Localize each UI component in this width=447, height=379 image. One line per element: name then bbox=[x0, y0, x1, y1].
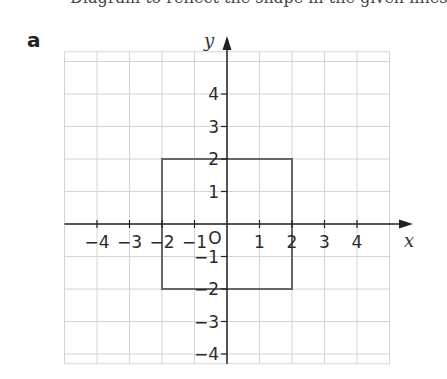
x-axis-arrow-icon bbox=[399, 220, 413, 229]
x-axis-label: x bbox=[404, 230, 414, 251]
y-tick-label: −4 bbox=[194, 344, 219, 364]
y-tick-label: 4 bbox=[208, 84, 219, 104]
x-tick-label: 2 bbox=[287, 232, 298, 252]
x-tick-label: −2 bbox=[149, 232, 174, 252]
y-tick-label: 1 bbox=[208, 182, 219, 202]
y-tick-label: −1 bbox=[194, 247, 219, 267]
y-axis-arrow-icon bbox=[223, 36, 232, 50]
y-tick-label: −3 bbox=[194, 312, 219, 332]
y-axis-label: y bbox=[203, 30, 215, 51]
x-tick-label: −3 bbox=[117, 232, 142, 252]
y-tick-label: 3 bbox=[208, 117, 219, 137]
y-tick-label: −2 bbox=[194, 279, 219, 299]
origin-label: O bbox=[208, 228, 221, 248]
y-tick-label: 2 bbox=[208, 149, 219, 169]
x-tick-label: −4 bbox=[84, 232, 109, 252]
x-tick-label: 1 bbox=[254, 232, 265, 252]
x-tick-label: 4 bbox=[352, 232, 363, 252]
x-tick-label: 3 bbox=[319, 232, 330, 252]
